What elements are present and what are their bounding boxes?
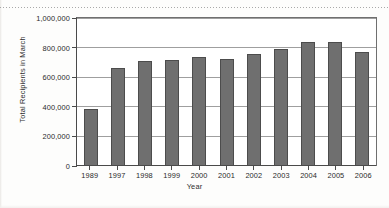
x-axis-tick-slot bbox=[240, 166, 267, 170]
x-axis-tick-label-2006: 2006 bbox=[350, 171, 377, 180]
x-axis-tick bbox=[199, 166, 200, 170]
x-axis-tick bbox=[308, 166, 309, 170]
bar-slot bbox=[213, 18, 240, 166]
x-axis-tick bbox=[226, 166, 227, 170]
x-axis-tick-slot bbox=[268, 166, 295, 170]
x-axis-tick-label-2004: 2004 bbox=[295, 171, 322, 180]
x-axis-tick-label-1998: 1998 bbox=[131, 171, 158, 180]
scan-edge-bottom bbox=[0, 205, 389, 208]
x-axis-tick bbox=[281, 166, 282, 170]
x-axis-tick-labels: 1989199719981999200020012002200320042005… bbox=[76, 171, 377, 180]
x-axis-ticks bbox=[76, 166, 377, 170]
x-axis-tick-label-2002: 2002 bbox=[240, 171, 267, 180]
bar-chart-figure: Total Recipients in March 0200,000400,00… bbox=[0, 11, 389, 197]
x-axis-tick-slot bbox=[322, 166, 349, 170]
x-axis-tick bbox=[253, 166, 254, 170]
bar-2004 bbox=[301, 42, 315, 166]
bar-slot bbox=[159, 18, 186, 166]
bar-slot bbox=[131, 18, 158, 166]
bar-2006 bbox=[355, 52, 369, 166]
bar-slot bbox=[104, 18, 131, 166]
x-axis-tick-slot bbox=[185, 166, 212, 170]
bar-slot bbox=[240, 18, 267, 166]
bar-slot bbox=[267, 18, 294, 166]
plot-area: 0200,000400,000600,000800,0001,000,000 bbox=[76, 17, 377, 166]
x-axis-tick-label-2005: 2005 bbox=[322, 171, 349, 180]
y-axis-tick-label: 1,000,000 bbox=[36, 14, 70, 23]
bars-group bbox=[77, 18, 376, 166]
page-canvas: Total Recipients in March 0200,000400,00… bbox=[0, 0, 389, 208]
bar-2001 bbox=[220, 59, 234, 166]
x-axis-tick bbox=[335, 166, 336, 170]
x-axis-tick bbox=[117, 166, 118, 170]
x-axis-tick bbox=[363, 166, 364, 170]
x-axis-tick bbox=[144, 166, 145, 170]
x-axis-tick bbox=[171, 166, 172, 170]
x-axis-tick-slot bbox=[103, 166, 130, 170]
x-axis-tick-slot bbox=[213, 166, 240, 170]
x-axis-tick-label-1997: 1997 bbox=[103, 171, 130, 180]
x-axis-title: Year bbox=[0, 182, 389, 191]
bar-2000 bbox=[192, 57, 206, 166]
x-axis-tick-slot bbox=[158, 166, 185, 170]
x-axis-tick-slot bbox=[131, 166, 158, 170]
bar-slot bbox=[295, 18, 322, 166]
bar-1989 bbox=[84, 109, 98, 166]
x-axis-tick-slot bbox=[295, 166, 322, 170]
bar-2005 bbox=[328, 42, 342, 166]
bar-2002 bbox=[247, 54, 261, 166]
bar-1998 bbox=[138, 61, 152, 166]
bar-1999 bbox=[165, 60, 179, 166]
y-axis-tick-label: 800,000 bbox=[43, 43, 70, 52]
y-axis-tick-label: 200,000 bbox=[43, 132, 70, 141]
x-axis-tick bbox=[89, 166, 90, 170]
bar-2003 bbox=[274, 49, 288, 166]
x-axis-tick-slot bbox=[76, 166, 103, 170]
x-axis-tick-label-1999: 1999 bbox=[158, 171, 185, 180]
y-axis-tick-label: 400,000 bbox=[43, 102, 70, 111]
bar-slot bbox=[322, 18, 349, 166]
x-axis-tick-slot bbox=[350, 166, 377, 170]
x-axis-tick-label-2003: 2003 bbox=[268, 171, 295, 180]
bar-1997 bbox=[111, 68, 125, 166]
bar-slot bbox=[186, 18, 213, 166]
y-axis-tick-label: 600,000 bbox=[43, 73, 70, 82]
scan-artifact-dotted-rule bbox=[0, 7, 389, 8]
y-axis-title: Total Recipients in March bbox=[18, 10, 27, 150]
x-axis-tick-label-2001: 2001 bbox=[213, 171, 240, 180]
y-axis-tick-label: 0 bbox=[66, 162, 70, 171]
bar-slot bbox=[77, 18, 104, 166]
bar-slot bbox=[349, 18, 376, 166]
x-axis-tick-label-2000: 2000 bbox=[185, 171, 212, 180]
x-axis-tick-label-1989: 1989 bbox=[76, 171, 103, 180]
